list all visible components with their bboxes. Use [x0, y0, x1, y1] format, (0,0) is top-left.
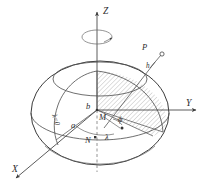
lower-parallel-arc	[45, 146, 155, 164]
longitude-lambda-label: λ	[104, 132, 109, 142]
point-p-label: P	[141, 42, 147, 52]
figure-container: Z Y X P h M N ϕ λ λ=0 b a	[0, 0, 211, 195]
latitude-phi-label: ϕ	[118, 114, 123, 124]
z-axis-label: Z	[103, 6, 109, 16]
prime-meridian-curve	[54, 71, 97, 145]
point-surface-marker	[121, 127, 124, 130]
geodetic-ellipsoid-diagram: Z Y X P h M N ϕ λ λ=0 b a	[0, 0, 211, 195]
point-m-marker	[96, 109, 99, 112]
semi-major-axis-label: a	[71, 120, 75, 130]
x-axis-label: X	[11, 164, 19, 174]
point-m-label: M	[98, 112, 107, 122]
prime-meridian-label: λ=0	[50, 112, 62, 127]
height-h-label: h	[146, 62, 150, 70]
y-axis-label: Y	[186, 98, 193, 108]
semi-major-axis-ray	[56, 110, 97, 140]
semi-minor-axis-label: b	[86, 101, 90, 111]
point-n-marker	[94, 136, 96, 138]
point-p-marker	[160, 52, 164, 56]
